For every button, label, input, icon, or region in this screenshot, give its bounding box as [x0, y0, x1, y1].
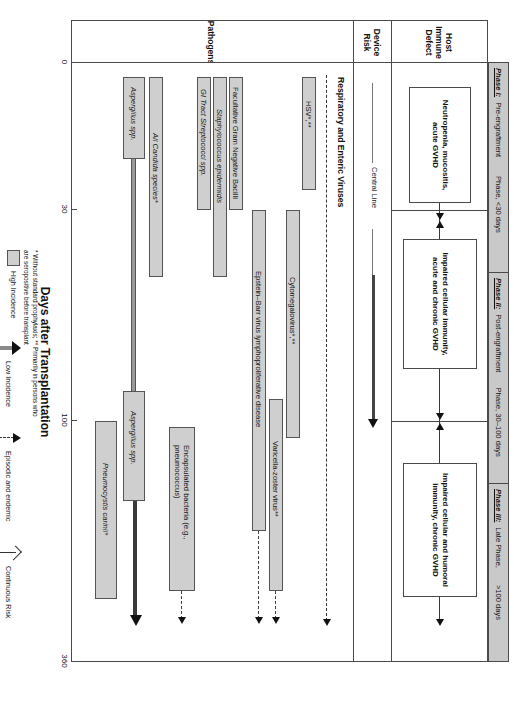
legend-item-continuous-risk: Continuous Risk	[0, 545, 20, 618]
axis-tick-label-360: 360	[60, 654, 69, 667]
row-label-pathogens: Pathogens	[70, 21, 353, 64]
row-label-text: Host Immune Defect	[425, 21, 455, 64]
aspergillus-late-tail	[133, 501, 137, 619]
phase-cell-3: Phase III: Late Phase, >100 days	[489, 484, 508, 663]
high-incidence-swatch-icon	[7, 250, 20, 266]
row-label-host-immune-defect: Host Immune Defect	[391, 21, 487, 64]
encapsulated-bacteria-arrowhead	[178, 617, 186, 624]
legend-label-high-incidence: High Incidence	[9, 271, 18, 319]
phase-cell-2: Phase II: Post-engraftment Phase, 30–100…	[489, 273, 508, 483]
encapsulated-bacteria-dash-tail	[181, 591, 182, 619]
axis-tick-360	[71, 661, 77, 662]
axis-tick-30	[71, 209, 77, 210]
chart-plot-area: Neutropenia, mucositis, acute GVHD Impai…	[71, 62, 488, 662]
phase-2-desc: Post-engraftment	[494, 314, 503, 372]
row-separator-1	[391, 63, 392, 661]
respiratory-enteric-viruses-arrowhead	[323, 619, 331, 626]
phase-1-desc: Pre-engraftment	[494, 102, 503, 157]
row-label-device-risk: Device Risk	[353, 21, 391, 64]
axis-tick-0	[71, 62, 77, 63]
immune-defect-text: Impaired cellular immunity, acute and ch…	[430, 242, 450, 366]
legend-label-episodic-endemic: Episodic and endemic	[5, 451, 14, 521]
axis-title: Days after Transplantation	[38, 62, 52, 662]
immune-defect-box-phase1: Neutropenia, mucositis, acute GVHD	[409, 87, 471, 203]
row-separator-2	[353, 63, 354, 661]
pathogen-label-text: Encapsulated bacteria (e.g., pneumococcu…	[173, 445, 191, 540]
low-incidence-arrow-icon	[0, 340, 20, 356]
row-label-column: Host Immune Defect Device Risk Pathogens	[71, 20, 488, 63]
ebv-lpd-arrowhead	[255, 617, 263, 624]
phase-3-range: >100 days	[494, 585, 503, 620]
row-label-text: Pathogens	[207, 21, 217, 64]
pathogen-label-encapsulated-bacteria: Encapsulated bacteria (e.g., pneumococcu…	[172, 445, 191, 585]
phase-2-name: Phase II:	[494, 278, 503, 309]
ebv-lpd-dash-tail	[258, 531, 259, 619]
central-line-track	[372, 83, 373, 163]
central-line-bar	[372, 275, 375, 421]
aspergillus-late-arrowhead	[130, 615, 142, 626]
continuous-risk-arrow-icon	[0, 545, 20, 561]
pathogen-label-all-candida-species: All Candida species*	[151, 133, 160, 203]
figure-frame: Phase I: Pre-engraftment Phase, <30 days…	[0, 0, 514, 709]
legend-label-continuous-risk: Continuous Risk	[5, 566, 14, 618]
legend-item-high-incidence: High Incidence	[7, 250, 20, 319]
legend-label-low-incidence: Low Incidence	[5, 361, 14, 407]
pathogen-label-hsv: HSV*,**	[304, 101, 313, 128]
phase-1-name: Phase I:	[494, 68, 503, 97]
phase-header-band: Phase I: Pre-engraftment Phase, <30 days…	[488, 62, 509, 662]
immune-defect-text: Neutropenia, mucositis, acute GVHD	[430, 90, 450, 200]
pathogen-label-pneumocystis-carinii: Pneumocystis carinii*	[101, 463, 110, 535]
legend-item-episodic-endemic: Episodic and endemic	[0, 430, 20, 521]
phase-2-range: Phase, 30–100 days	[494, 387, 503, 456]
pathogen-label-aspergillus-late: Aspergillus spp.	[129, 411, 138, 465]
varicella-zoster-arrowhead	[272, 617, 280, 624]
axis-tick-label-100: 100	[60, 413, 69, 426]
arrow-right-immune-terminal	[436, 619, 444, 626]
pathogen-label-cytomegalovirus: Cytomegalovirus*,**	[288, 277, 297, 345]
x-axis: 0 30 100 360	[70, 62, 71, 662]
phase-cell-1: Phase I: Pre-engraftment Phase, <30 days	[489, 63, 508, 272]
phase-3-name: Phase III:	[494, 489, 503, 522]
immune-defect-text: Impaired cellular and humoral immunity, …	[430, 466, 450, 594]
pathogen-bar-hsv	[302, 77, 316, 190]
legend: High Incidence Low Incidence Episodic an…	[4, 250, 38, 670]
respiratory-enteric-viruses-dash-track	[326, 75, 327, 621]
row-label-text: Device Risk	[363, 21, 383, 64]
axis-tick-100	[71, 420, 77, 421]
pathogen-label-gi-tract-streptococci: GI Tract Streptococci spp.	[199, 89, 208, 176]
diagram-canvas: Phase I: Pre-engraftment Phase, <30 days…	[0, 0, 514, 709]
pathogen-label-facultative-gram-negative-bacilli: Facultative Gram Negative Bacilli	[231, 87, 240, 199]
varicella-zoster-dash-tail	[275, 591, 276, 619]
pathogen-group-header-respiratory-enteric-viruses: Respiratory and Enteric Viruses	[336, 77, 346, 207]
pathogen-label-staphylococcus-epidermidis: Staphylococcus epidermidis	[215, 109, 224, 203]
immune-defect-box-phase3: Impaired cellular and humoral immunity, …	[403, 463, 477, 597]
pathogen-label-varicella-zoster-virus: Varicella-zoster virus**	[271, 441, 280, 517]
axis-tick-label-0: 0	[60, 60, 69, 64]
central-line-track-right	[372, 229, 373, 275]
aspergillus-connector	[131, 159, 136, 391]
legend-item-low-incidence: Low Incidence	[0, 340, 20, 407]
central-line-arrowhead	[368, 419, 378, 428]
arrow-right-phase1-to-2	[436, 213, 444, 220]
arrow-right-phase2-to-3	[436, 413, 444, 420]
phase-3-desc: Late Phase,	[494, 527, 503, 568]
pathogen-label-aspergillus-early: Aspergillus spp.	[129, 87, 138, 141]
pathogen-label-ebv-lpd: Epstein–Barr virus lymphoproliferative d…	[254, 271, 263, 427]
arrow-left-phase2-from-1	[436, 221, 444, 228]
phase-1-range: Phase, <30 days	[494, 176, 503, 233]
immune-defect-box-phase2: Impaired cellular immunity, acute and ch…	[403, 239, 477, 369]
axis-tick-label-30: 30	[60, 205, 69, 214]
central-line-label: Central Line	[370, 167, 379, 208]
episodic-endemic-arrow-icon	[0, 430, 20, 446]
arrow-left-phase3-from-2	[436, 423, 444, 430]
